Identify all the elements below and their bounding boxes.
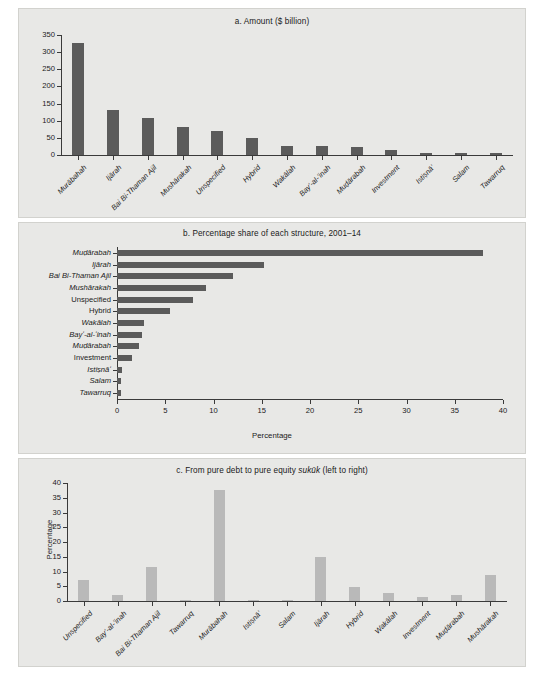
y-tick xyxy=(63,483,67,484)
bar xyxy=(490,153,502,155)
y-category-label: Hybrid xyxy=(21,306,111,315)
x-tick xyxy=(117,400,118,404)
bar xyxy=(117,343,139,349)
x-tick xyxy=(148,156,149,160)
y-tick-label: 40 xyxy=(33,478,61,487)
panel-c-title: c. From pure debt to pure equity sukūk (… xyxy=(19,466,525,475)
y-category-label: Istiṣnāʻ xyxy=(21,365,111,374)
x-tick xyxy=(456,602,457,606)
x-category-label: Unspecified xyxy=(61,609,95,643)
x-category-label: Salam xyxy=(276,609,297,630)
x-tick xyxy=(389,602,390,606)
x-tick xyxy=(287,156,288,160)
x-tick xyxy=(287,602,288,606)
bar xyxy=(211,131,223,155)
x-tick-label: 5 xyxy=(151,406,179,415)
x-tick xyxy=(391,156,392,160)
x-category-label: Murābahah xyxy=(197,609,230,642)
bar xyxy=(180,600,191,601)
bar xyxy=(117,273,233,279)
y-category-label: Tawarruq xyxy=(21,388,111,397)
bar xyxy=(117,308,170,314)
x-category-label: Muḍārabah xyxy=(334,163,367,196)
x-tick xyxy=(185,602,186,606)
panel-c-yaxis-title: Percentage xyxy=(45,505,54,575)
y-category-label: Muḍārabah xyxy=(21,248,111,257)
x-tick xyxy=(217,156,218,160)
x-tick xyxy=(496,156,497,160)
figure-root: a. Amount ($ billion) 050100150200250300… xyxy=(0,0,544,675)
y-tick-label: 35 xyxy=(33,493,61,502)
x-tick xyxy=(84,602,85,606)
x-tick xyxy=(490,602,491,606)
y-tick xyxy=(57,121,61,122)
bar xyxy=(117,355,132,361)
bar xyxy=(451,595,462,601)
y-tick xyxy=(57,52,61,53)
y-category-label: Investment xyxy=(21,353,111,362)
panel-a-title: a. Amount ($ billion) xyxy=(19,17,525,26)
x-category-label: Bayʻ-al-ʻinah xyxy=(297,163,332,198)
bar xyxy=(117,332,142,338)
x-tick xyxy=(426,156,427,160)
x-tick-label: 0 xyxy=(103,406,131,415)
bar xyxy=(383,593,394,601)
bar xyxy=(246,138,258,155)
y-tick xyxy=(63,542,67,543)
bar xyxy=(142,118,154,155)
y-tick xyxy=(57,35,61,36)
y-tick-label: 100 xyxy=(27,116,55,125)
bar xyxy=(420,153,432,155)
x-category-label: Istiṣnāʻ xyxy=(241,609,264,632)
x-category-label: Investment xyxy=(370,163,402,195)
x-tick xyxy=(219,602,220,606)
panel-c-title-sukuk: sukūk xyxy=(298,466,320,475)
y-tick xyxy=(57,86,61,87)
panel-b-plot: 0510152025303540MuḍārabahIjārahBai Bi-Th… xyxy=(117,247,503,399)
y-tick xyxy=(63,557,67,558)
bar xyxy=(78,580,89,601)
bar xyxy=(485,575,496,601)
y-tick-label: 300 xyxy=(27,47,55,56)
y-tick xyxy=(57,104,61,105)
y-tick xyxy=(63,586,67,587)
bar xyxy=(248,600,259,601)
x-tick-label: 25 xyxy=(344,406,372,415)
x-tick xyxy=(322,156,323,160)
y-category-label: Salam xyxy=(21,376,111,385)
x-tick xyxy=(422,602,423,606)
x-tick xyxy=(461,156,462,160)
bar xyxy=(117,367,122,373)
y-tick-label: 200 xyxy=(27,81,55,90)
bar xyxy=(315,557,326,601)
x-tick xyxy=(357,156,358,160)
bar xyxy=(316,146,328,155)
y-tick xyxy=(63,498,67,499)
x-tick xyxy=(113,156,114,160)
bar xyxy=(112,595,123,601)
x-tick xyxy=(455,400,456,404)
x-tick xyxy=(262,400,263,404)
bar xyxy=(72,43,84,155)
y-category-label: Mushārakah xyxy=(21,283,111,292)
x-category-label: Murābahah xyxy=(56,163,89,196)
y-tick-label: 5 xyxy=(33,581,61,590)
bar xyxy=(214,490,225,602)
y-axis-line xyxy=(61,35,62,155)
y-tick xyxy=(63,601,67,602)
bar xyxy=(351,147,363,155)
y-category-label: Unspecified xyxy=(21,295,111,304)
panel-b-share: b. Percentage share of each structure, 2… xyxy=(18,222,526,454)
x-category-label: Tawarruq xyxy=(168,609,196,637)
x-tick xyxy=(355,602,356,606)
x-category-label: Istiṣnāʻ xyxy=(414,163,437,186)
bar xyxy=(117,390,121,396)
bar xyxy=(282,600,293,601)
y-axis-line xyxy=(67,483,68,601)
panel-a-plot: 050100150200250300350MurābahahIjārahBai … xyxy=(61,35,513,155)
bar xyxy=(117,320,144,326)
x-category-label: Mushārakah xyxy=(158,163,193,198)
x-tick-label: 15 xyxy=(248,406,276,415)
x-tick xyxy=(252,156,253,160)
bar xyxy=(117,297,193,303)
